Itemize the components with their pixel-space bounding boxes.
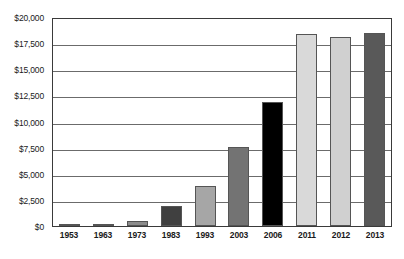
x-tick-label: 2013 [358,230,392,240]
bar-slot [53,19,87,226]
y-tick-label: $0 [35,222,44,232]
y-tick-label: $7,500 [19,144,44,154]
bar-2003[interactable] [228,147,249,226]
bar-1953[interactable] [59,224,80,226]
bar-2011[interactable] [296,34,317,226]
y-tick-label: $12,500 [14,91,44,101]
y-tick-label: $5,000 [19,170,44,180]
x-tick-label: 2003 [222,230,256,240]
bar-slot [188,19,222,226]
x-tick-label: 1983 [154,230,188,240]
bar-2012[interactable] [330,37,351,226]
x-tick-label: 2011 [290,230,324,240]
bar-slot [121,19,155,226]
bars-container [53,19,391,226]
y-tick-label: $10,000 [14,118,44,128]
bar-1973[interactable] [127,221,148,226]
bar-chart-figure: $20,000$17,500$15,000$12,500$10,000$7,50… [0,0,404,259]
plot-area [52,18,392,227]
y-tick-label: $20,000 [14,13,44,23]
bar-slot [256,19,290,226]
bar-1993[interactable] [195,186,216,226]
x-tick-label: 2012 [324,230,358,240]
bar-slot [323,19,357,226]
bar-slot [154,19,188,226]
bar-2013[interactable] [364,33,385,226]
y-axis: $20,000$17,500$15,000$12,500$10,000$7,50… [0,18,48,227]
bar-slot [357,19,391,226]
y-tick-label: $17,500 [14,39,44,49]
bar-2006[interactable] [262,102,283,226]
y-tick-label: $2,500 [19,196,44,206]
bar-1963[interactable] [93,224,114,226]
x-tick-label: 2006 [256,230,290,240]
bar-1983[interactable] [161,206,182,226]
x-tick-label: 1963 [86,230,120,240]
x-tick-label: 1973 [120,230,154,240]
y-tick-label: $15,000 [14,65,44,75]
x-axis: 1953196319731983199320032006201120122013 [52,230,392,240]
x-tick-label: 1953 [52,230,86,240]
bar-slot [222,19,256,226]
x-tick-label: 1993 [188,230,222,240]
bar-slot [87,19,121,226]
bar-slot [290,19,324,226]
